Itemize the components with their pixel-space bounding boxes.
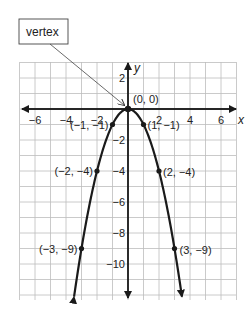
point-marker xyxy=(110,122,115,127)
y-tick-label: 2 xyxy=(119,72,125,84)
point-label: (−1, −1) xyxy=(70,119,109,131)
point-label: (−3, −9) xyxy=(39,243,78,255)
point-marker xyxy=(156,168,161,173)
y-tick-label: −2 xyxy=(112,134,125,146)
vertex-callout-label: vertex xyxy=(26,25,59,39)
y-axis-label: y xyxy=(133,61,141,75)
x-tick-label: 6 xyxy=(218,114,224,126)
x-tick-label: 4 xyxy=(187,114,193,126)
point-label: (1, −1) xyxy=(148,119,180,131)
point-label: (0, 0) xyxy=(133,93,159,105)
y-tick-label: −6 xyxy=(112,196,125,208)
parabola-graph: x y −6−4−2246 2−2−4−6−8−10 (0, 0)(−1, −1… xyxy=(0,0,249,317)
y-tick-label: −8 xyxy=(112,227,125,239)
point-marker xyxy=(141,122,146,127)
y-tick-label: −4 xyxy=(112,165,125,177)
point-label: (2, −4) xyxy=(163,166,195,178)
point-label: (−2, −4) xyxy=(54,165,93,177)
point-marker xyxy=(125,106,131,112)
point-label: (3, −9) xyxy=(180,244,212,256)
x-tick-label: −6 xyxy=(29,114,42,126)
point-marker xyxy=(79,246,84,251)
x-axis-label: x xyxy=(237,113,245,127)
y-tick-label: −10 xyxy=(106,258,125,270)
point-marker xyxy=(94,168,99,173)
point-marker xyxy=(172,246,177,251)
